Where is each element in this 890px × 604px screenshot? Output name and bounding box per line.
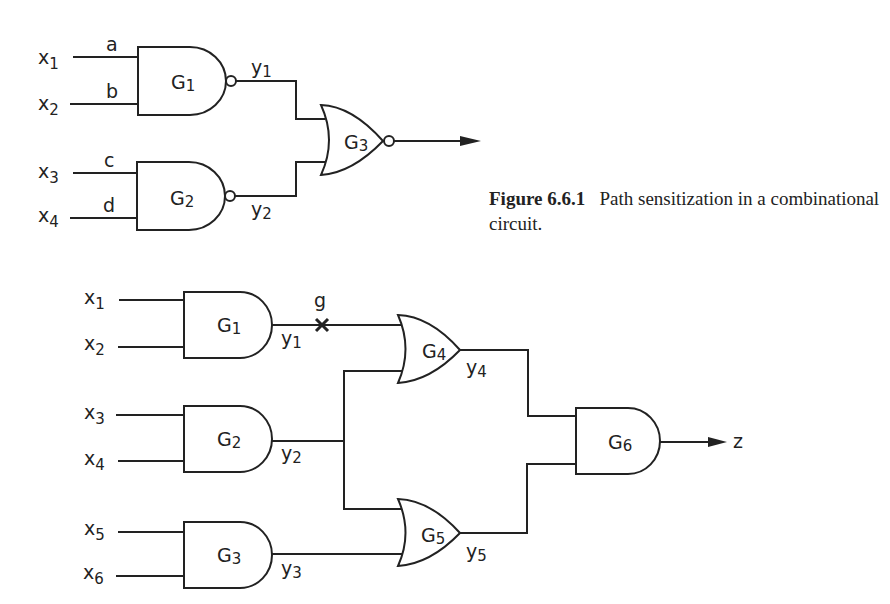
- gate-top-g1-nand: G1: [138, 47, 236, 115]
- gate-bottom-g4-or: G4: [398, 315, 460, 383]
- input-label-x4: x4: [84, 447, 105, 474]
- output-label-z: z: [733, 430, 743, 452]
- output-label-y2: y2: [251, 198, 272, 223]
- gate-bottom-g1-and: G1: [184, 292, 272, 358]
- wire-y1: [236, 81, 325, 119]
- gate-bottom-g2-and: G2: [184, 406, 272, 472]
- output-label-y4: y4: [466, 356, 487, 381]
- input-label-x3: x3: [84, 401, 105, 428]
- gate-bottom-g5-or: G5: [398, 499, 460, 566]
- input-label-x2: x2: [38, 92, 59, 119]
- input-label-x1: x1: [84, 286, 105, 313]
- input-label-x3: x3: [38, 160, 59, 187]
- figure-number: Figure 6.6.1: [489, 188, 585, 209]
- line-label-b: b: [106, 80, 118, 102]
- fault-label: g: [314, 289, 326, 311]
- top-circuit: x1 x2 x3 x4 a b c d G1 G2 y1 y2 G3: [38, 33, 481, 231]
- inversion-bubble-icon: [384, 136, 394, 146]
- arrow-head-icon: [708, 437, 727, 447]
- input-label-x1: x1: [38, 46, 59, 73]
- gate-top-g2-nand: G2: [137, 162, 235, 230]
- output-label-y1: y1: [281, 327, 302, 352]
- input-label-x2: x2: [84, 332, 105, 359]
- output-label-y3: y3: [281, 557, 302, 582]
- inversion-bubble-icon: [225, 191, 235, 201]
- line-label-c: c: [104, 149, 114, 171]
- input-label-x5: x5: [84, 517, 105, 544]
- wire-y5: [460, 464, 576, 533]
- circuit-diagrams: x1 x2 x3 x4 a b c d G1 G2 y1 y2 G3: [0, 0, 890, 604]
- output-label-y2: y2: [281, 442, 302, 467]
- line-label-d: d: [103, 194, 115, 216]
- wire-y2-fanout: [344, 371, 404, 509]
- line-label-a: a: [106, 33, 118, 55]
- gate-bottom-g6-and: G6: [576, 408, 660, 474]
- arrow-head-icon: [460, 136, 481, 146]
- input-label-x4: x4: [38, 204, 59, 231]
- wire-y4: [460, 350, 576, 416]
- output-label-y1: y1: [251, 56, 272, 81]
- output-label-y5: y5: [466, 540, 487, 565]
- bottom-circuit: x1 x2 x3 x4 x5 x6 G1 G2 G3 y1 y2 y3: [83, 286, 743, 588]
- inversion-bubble-icon: [226, 76, 236, 86]
- wire-y2: [235, 162, 325, 196]
- gate-bottom-g3-and: G3: [184, 522, 272, 588]
- gate-top-g3-nor: G3: [321, 105, 394, 175]
- input-label-x6: x6: [83, 561, 104, 588]
- figure-caption: Figure 6.6.1 Path sensitization in a com…: [489, 186, 889, 236]
